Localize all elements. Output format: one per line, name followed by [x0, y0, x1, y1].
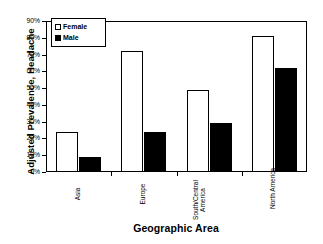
bar-female-0 [56, 132, 78, 172]
legend-swatch-male-icon [55, 35, 61, 41]
bar-male-2 [210, 123, 232, 172]
x-axis-title: Geographic Area [44, 222, 308, 234]
y-tick-mark [42, 122, 46, 123]
y-tick-mark [42, 138, 46, 139]
y-tick-label: 90% [0, 17, 40, 25]
x-category-label: South/CentralAmerica [192, 179, 207, 221]
x-category-label: Asia [74, 179, 81, 209]
legend-label-female: Female [63, 23, 87, 31]
x-tick-mark [242, 172, 243, 176]
bar-female-1 [121, 51, 143, 172]
y-tick-mark [42, 21, 46, 22]
y-tick-label: 50% [0, 84, 40, 92]
bar-male-1 [144, 132, 166, 172]
y-tick-mark [42, 71, 46, 72]
y-tick-label: 70% [0, 51, 40, 59]
y-tick-mark [42, 172, 46, 173]
x-category-label: Europe [139, 179, 146, 209]
legend-item-female: Female [55, 21, 105, 32]
y-tick-label: 0% [0, 168, 40, 176]
y-tick-mark [42, 88, 46, 89]
y-tick-label: 30% [0, 118, 40, 126]
legend-item-male: Male [55, 32, 105, 43]
bar-female-3 [252, 36, 274, 172]
legend-swatch-female-icon [55, 24, 61, 30]
x-tick-mark [177, 172, 178, 176]
bar-male-3 [275, 68, 297, 172]
y-tick-label: 10% [0, 151, 40, 159]
y-tick-mark [42, 38, 46, 39]
chart-legend: Female Male [51, 18, 106, 47]
y-tick-mark [42, 105, 46, 106]
legend-label-male: Male [63, 34, 79, 42]
chart-figure: Adjusted Prevalence, Headache 0%10%20%30… [0, 0, 323, 244]
x-tick-mark [111, 172, 112, 176]
x-category-line: America [199, 179, 206, 221]
x-category-line: Europe [139, 179, 146, 209]
x-category-label: North America [269, 179, 276, 209]
y-tick-mark [42, 155, 46, 156]
y-tick-mark [42, 55, 46, 56]
x-category-line: South/Central [192, 179, 199, 221]
y-tick-label: 20% [0, 134, 40, 142]
y-tick-label: 60% [0, 67, 40, 75]
bar-female-2 [187, 90, 209, 172]
x-category-line: North America [269, 179, 276, 209]
y-tick-label: 80% [0, 34, 40, 42]
bar-male-0 [79, 157, 101, 172]
x-category-line: Asia [74, 179, 81, 209]
y-tick-label: 40% [0, 101, 40, 109]
